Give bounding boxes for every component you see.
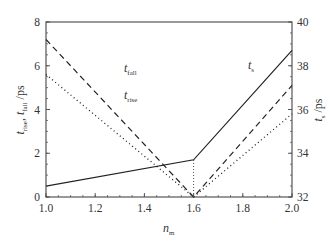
y-left-tick-label: 2 [34, 147, 40, 159]
plot-frame [46, 22, 292, 197]
plot-border [46, 22, 292, 197]
series-t-fall [46, 40, 292, 198]
x-tick-label: 1.0 [39, 202, 54, 214]
chart: 1.01.21.41.61.82.0024683234363840 tfall … [0, 0, 332, 249]
y-left-tick-label: 6 [34, 60, 40, 72]
y-right-tick-label: 36 [297, 104, 309, 116]
y-left-tick-label: 8 [34, 16, 40, 28]
y-left-tick-label: 4 [34, 104, 40, 116]
series-t-rise [46, 75, 292, 198]
y-right-tick-label: 32 [297, 191, 309, 203]
series-t-s [46, 50, 292, 186]
x-axis-label: nm [163, 221, 175, 237]
data-series [46, 40, 292, 198]
axis-ticks: 1.01.21.41.61.82.0024683234363840 [34, 16, 309, 214]
y-axis-right-label: ts /ps [311, 98, 327, 121]
annotation-t-fall: tfall [124, 61, 137, 77]
annotation-t-s: ts [248, 58, 254, 74]
y-right-tick-label: 38 [297, 60, 309, 72]
x-tick-label: 1.6 [186, 202, 201, 214]
y-right-tick-label: 34 [297, 147, 309, 159]
x-tick-label: 2.0 [285, 202, 300, 214]
y-left-tick-label: 0 [34, 191, 40, 203]
x-tick-label: 1.2 [88, 202, 103, 214]
x-tick-label: 1.4 [137, 202, 152, 214]
x-tick-label: 1.8 [236, 202, 251, 214]
y-axis-left-label: trise, tfall /ps [13, 85, 29, 134]
y-right-tick-label: 40 [297, 16, 309, 28]
annotation-t-rise: trise [124, 88, 137, 104]
